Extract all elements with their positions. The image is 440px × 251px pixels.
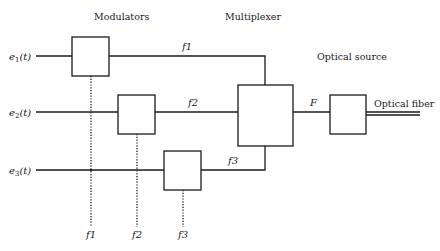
modulators-heading: Modulators xyxy=(94,11,149,22)
input-label-e1: e1(t) xyxy=(9,51,31,64)
channel-label-f2: f2 xyxy=(187,97,198,108)
input-label-e2: e2(t) xyxy=(9,107,31,120)
channel-label-f3: f3 xyxy=(227,155,238,166)
combined-label-F: F xyxy=(309,97,318,108)
wdm-block-diagram: Modulators Multiplexer Optical source Op… xyxy=(0,0,440,251)
multiplexer-heading: Multiplexer xyxy=(225,11,281,22)
channel-label-f1: f1 xyxy=(181,41,192,52)
modulator-box-1 xyxy=(72,37,109,76)
modulator-box-3 xyxy=(164,151,201,190)
junction-dot xyxy=(90,169,93,172)
modulator-box-2 xyxy=(118,95,155,134)
channel-line-f1 xyxy=(109,56,265,85)
carrier-label-f3: f3 xyxy=(177,229,188,240)
multiplexer-box xyxy=(238,85,293,146)
carrier-label-f2: f2 xyxy=(131,229,142,240)
input-label-e3: e3(t) xyxy=(9,165,31,178)
optical-source-heading: Optical source xyxy=(317,51,387,62)
optical-source-box xyxy=(330,95,366,134)
carrier-label-f1: f1 xyxy=(85,229,96,240)
optical-fiber-label: Optical fiber xyxy=(374,98,435,109)
